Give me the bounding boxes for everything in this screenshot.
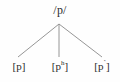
leaf-2-tail: ] xyxy=(65,60,69,72)
branch-right xyxy=(59,24,102,57)
leaf-node-allophone-1: [p] xyxy=(4,61,34,72)
phoneme-allophone-tree-diagram: /p/ [p] [ph] [p˺] xyxy=(0,0,120,82)
leaf-1-tail: ] xyxy=(22,60,26,72)
leaf-2-base: [p xyxy=(52,60,61,72)
root-node-phoneme-label: /p/ xyxy=(0,4,120,16)
leaf-3-tail: ] xyxy=(106,60,110,72)
leaf-3-base: [p xyxy=(94,60,103,72)
leaf-1-base: [p xyxy=(12,60,21,72)
branch-left xyxy=(18,24,59,57)
leaf-node-allophone-3: [p˺] xyxy=(86,61,118,72)
leaf-node-allophone-2: [ph] xyxy=(44,61,76,72)
